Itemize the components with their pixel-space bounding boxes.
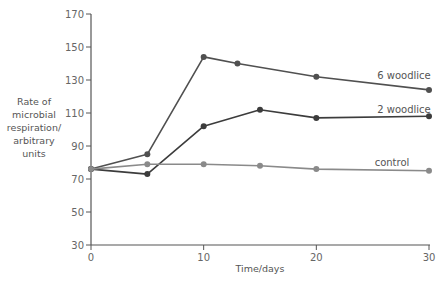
data-point (201, 161, 207, 167)
x-tick-label: 10 (197, 252, 210, 263)
y-tick-label: 170 (65, 9, 84, 20)
series-label: 6 woodlice (377, 70, 431, 81)
y-tick-label: 30 (71, 240, 84, 251)
y-tick-label: 150 (65, 42, 84, 53)
x-axis-label: Time/days (235, 263, 285, 274)
data-point (426, 87, 432, 93)
series-label: 2 woodlice (377, 104, 431, 115)
x-tick-label: 0 (88, 252, 94, 263)
series-control: control (88, 157, 432, 174)
data-point (313, 166, 319, 172)
data-point (144, 161, 150, 167)
axes: 305070901101301501700102030 (65, 9, 435, 264)
y-tick-label: 50 (71, 207, 84, 218)
data-point (144, 151, 150, 157)
series-layer: 6 woodlice2 woodlicecontrol (88, 54, 432, 177)
data-point (257, 107, 263, 113)
data-point (426, 168, 432, 174)
data-point (313, 74, 319, 80)
y-tick-label: 110 (65, 108, 84, 119)
line-chart: 305070901101301501700102030 6 woodlice2 … (0, 0, 444, 283)
y-tick-label: 90 (71, 141, 84, 152)
data-point (313, 115, 319, 121)
data-point (234, 61, 240, 67)
y-tick-label: 130 (65, 75, 84, 86)
data-point (257, 163, 263, 169)
data-point (88, 166, 94, 172)
y-tick-label: 70 (71, 174, 84, 185)
series-label: control (375, 157, 410, 168)
data-point (201, 54, 207, 60)
x-tick-label: 20 (310, 252, 323, 263)
data-point (201, 123, 207, 129)
data-point (144, 171, 150, 177)
x-tick-label: 30 (423, 252, 436, 263)
